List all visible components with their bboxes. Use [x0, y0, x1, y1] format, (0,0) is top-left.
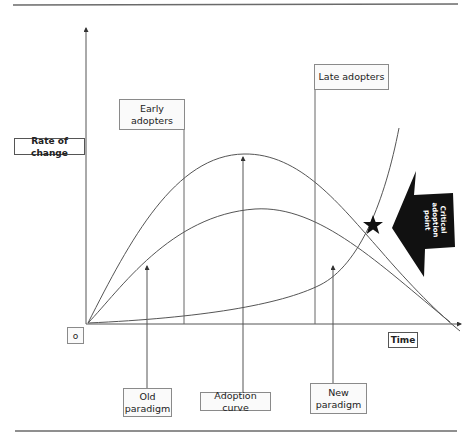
late-adopters-label: Late adopters: [314, 64, 389, 90]
adoption-diagram: [0, 0, 471, 432]
new-paradigm-label: New paradigm: [310, 383, 367, 414]
adoption-curve-label: Adoption curve: [200, 392, 271, 411]
star-icon: [363, 215, 383, 234]
origin-label: o: [67, 327, 84, 344]
x-axis-label: Time: [388, 332, 418, 348]
early-adopters-label: Early adopters: [119, 99, 185, 130]
old-paradigm-label: Old paradigm: [123, 388, 172, 417]
top-rule: [13, 4, 458, 5]
critical-point-label: Critical adoption point: [420, 191, 448, 250]
y-axis-label: Rate of change: [14, 138, 85, 155]
